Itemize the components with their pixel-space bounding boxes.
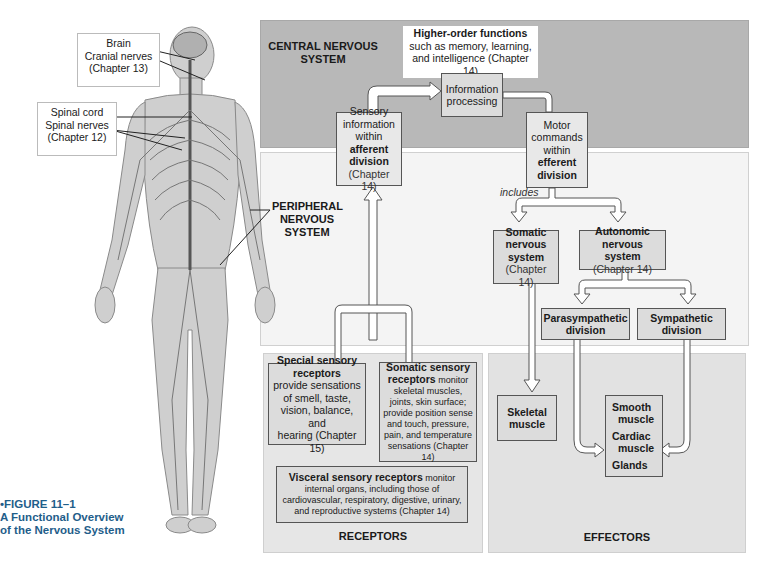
autonomic-nervous-system-node: Autonomic nervous system (Chapter 14) bbox=[579, 230, 666, 270]
chapter-label: (Chapter 12) bbox=[43, 131, 111, 144]
effectors-title: EFFECTORS bbox=[488, 531, 746, 544]
sensory-afferent-node: Sensory information within afferent divi… bbox=[336, 112, 402, 186]
includes-label: includes bbox=[500, 186, 539, 198]
motor-efferent-node: Motor commands within efferent division bbox=[526, 112, 588, 188]
somatic-nervous-system-node: Somatic nervous system (Chapter 14) bbox=[493, 230, 559, 284]
spinal-label-box: Spinal cord Spinal nerves (Chapter 12) bbox=[37, 102, 117, 156]
spinal-cord-label: Spinal cord bbox=[43, 106, 111, 119]
special-sensory-receptors-node: Special sensory receptors provide sensat… bbox=[268, 363, 366, 445]
brain-label-box: Brain Cranial nerves (Chapter 13) bbox=[77, 33, 160, 87]
higher-order-functions-box: Higher-order functions such as memory, l… bbox=[403, 26, 538, 78]
chapter-label: (Chapter 13) bbox=[83, 62, 154, 75]
receptors-title: RECEPTORS bbox=[263, 530, 483, 543]
cns-title: CENTRAL NERVOUS SYSTEM bbox=[268, 40, 378, 66]
visceral-sensory-receptors-node: Visceral sensory receptors monitor inter… bbox=[276, 466, 468, 523]
spinal-nerves-label: Spinal nerves bbox=[43, 119, 111, 132]
figure-title-line1: A Functional Overview bbox=[0, 511, 125, 524]
pns-label: PERIPHERAL NERVOUS SYSTEM bbox=[272, 200, 342, 239]
figure-caption: •FIGURE 11–1 A Functional Overview of th… bbox=[0, 498, 125, 537]
information-processing-node: Information processing bbox=[441, 73, 503, 117]
somatic-sensory-receptors-node: Somatic sensory receptors monitor skelet… bbox=[379, 362, 477, 462]
brain-label: Brain bbox=[83, 37, 154, 50]
sympathetic-division-node: Sympathetic division bbox=[637, 308, 726, 340]
skeletal-muscle-node: Skeletal muscle bbox=[497, 395, 557, 441]
cranial-nerves-label: Cranial nerves bbox=[83, 50, 154, 63]
figure-title-line2: of the Nervous System bbox=[0, 524, 125, 537]
smooth-cardiac-glands-node: Smooth muscle Cardiac muscle Glands bbox=[605, 395, 663, 477]
parasympathetic-division-node: Parasympathetic division bbox=[541, 308, 630, 340]
figure-number: FIGURE 11–1 bbox=[4, 498, 76, 510]
